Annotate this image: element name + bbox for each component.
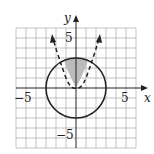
parabola-arrow-left-icon (50, 34, 56, 43)
y-tick-5: 5 (65, 32, 73, 44)
graph (0, 0, 154, 154)
x-axis-label: x (144, 92, 151, 104)
y-tick-neg5: −5 (56, 129, 74, 141)
parabola-arrow-right-icon (96, 34, 102, 43)
x-tick-neg5: −5 (14, 92, 32, 104)
axes (16, 18, 146, 148)
x-tick-5: 5 (121, 92, 129, 104)
y-axis-label: y (64, 12, 71, 24)
y-arrow-icon (73, 15, 79, 22)
